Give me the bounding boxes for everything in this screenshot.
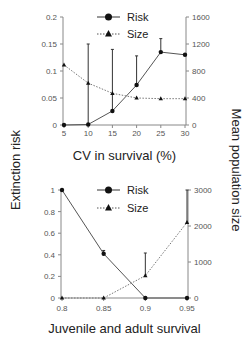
- y-left-tick-label: 0: [53, 121, 58, 130]
- y-right-tick-label: 1600: [192, 13, 210, 22]
- size-point: [159, 96, 163, 100]
- legend-marker-triangle: [105, 204, 112, 211]
- x-tick-label: 0.95: [179, 304, 195, 313]
- series-line-risk: [64, 52, 185, 125]
- risk-point: [183, 53, 187, 57]
- legend-marker-triangle: [105, 30, 112, 37]
- y-left-tick-label: 0.2: [46, 13, 58, 22]
- y-left-tick-label: 0: [51, 294, 56, 303]
- x-tick-label: 10: [84, 129, 93, 138]
- risk-point: [110, 109, 114, 113]
- y-right-tick-label: 1200: [192, 40, 210, 49]
- risk-point: [86, 122, 90, 126]
- y-left-tick-label: 0.4: [44, 251, 56, 260]
- y-left-tick-label: 0.2: [44, 272, 56, 281]
- y-right-tick-label: 1000: [194, 258, 212, 267]
- y-left-tick-label: 0.05: [41, 94, 57, 103]
- legend-marker-circle: [105, 14, 112, 21]
- risk-point: [143, 296, 147, 300]
- y-left-tick-label: 0.8: [44, 208, 56, 217]
- size-point: [62, 63, 66, 67]
- y-left-tick-label: 0.6: [44, 229, 56, 238]
- legend-marker-circle: [105, 187, 112, 194]
- legend-label-size: Size: [127, 28, 148, 40]
- y-left-tick-label: 1: [51, 186, 56, 195]
- y-right-tick-label: 2000: [194, 222, 212, 231]
- risk-point: [159, 50, 163, 54]
- risk-point: [185, 296, 189, 300]
- x-tick-label: 30: [181, 129, 190, 138]
- y-left-tick-label: 0.1: [46, 67, 58, 76]
- x-tick-label: 25: [156, 129, 165, 138]
- x-axis-label: CV in survival (%): [73, 148, 176, 163]
- y-right-tick-label: 0: [192, 121, 197, 130]
- x-tick-label: 0.85: [96, 304, 112, 313]
- x-tick-label: 5: [62, 129, 67, 138]
- panel-bottom: 00.20.40.60.8101000200030000.80.850.90.9…: [44, 184, 212, 336]
- y-right-tick-label: 3000: [194, 186, 212, 195]
- y-left-label: Extinction risk: [8, 129, 23, 210]
- x-axis-label: Juvenile and adult survival: [48, 321, 201, 336]
- y-left-tick-label: 0.15: [41, 40, 57, 49]
- x-tick-label: 0.9: [140, 304, 152, 313]
- series-line-size: [64, 65, 185, 99]
- size-point: [185, 220, 189, 224]
- risk-point: [60, 188, 64, 192]
- legend-label-size: Size: [127, 202, 148, 214]
- size-point: [86, 81, 90, 85]
- y-right-tick-label: 800: [192, 67, 206, 76]
- y-right-tick-label: 0: [194, 294, 199, 303]
- panel-top: 00.050.10.150.20400800120016005101520253…: [41, 11, 210, 163]
- x-tick-label: 0.8: [56, 304, 68, 313]
- risk-point: [101, 252, 105, 256]
- chart-figure: Extinction risk Mean population size 00.…: [0, 0, 250, 340]
- y-right-tick-label: 400: [192, 94, 206, 103]
- x-tick-label: 15: [108, 129, 117, 138]
- risk-point: [62, 123, 66, 127]
- series-line-risk: [62, 190, 187, 298]
- size-point: [134, 96, 138, 100]
- y-right-label: Mean population size: [229, 109, 244, 232]
- series-line-size: [62, 222, 187, 298]
- x-tick-label: 20: [132, 129, 141, 138]
- legend-label-risk: Risk: [127, 11, 149, 23]
- legend-label-risk: Risk: [127, 184, 149, 196]
- risk-point: [134, 83, 138, 87]
